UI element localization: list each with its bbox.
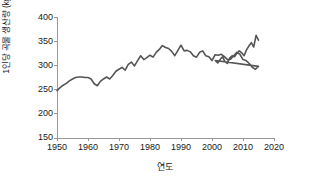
x-axis-label: 연도 (0, 160, 330, 173)
chart-container: 1인당 곡물 생산량 (kg/인) 400 350 300 250 200 15… (0, 0, 330, 186)
plot-area (0, 0, 330, 186)
data-series-line (57, 35, 259, 90)
